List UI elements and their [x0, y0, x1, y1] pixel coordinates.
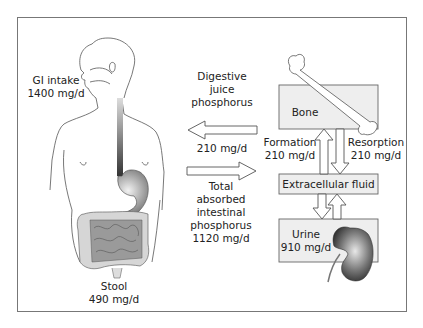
nipples	[80, 162, 148, 165]
absorbed-line4: phosphorus	[185, 219, 257, 232]
urine-title: Urine	[280, 228, 332, 241]
urine-to-ecf-arrow	[328, 194, 346, 219]
bone-label: Bone	[285, 106, 325, 119]
absorbed-phosphorus-label: Total absorbed intestinal phosphorus 112…	[185, 180, 257, 245]
mouth-cavity	[90, 68, 112, 84]
torso-right	[152, 200, 160, 262]
digestive-juice-arrow	[188, 121, 257, 139]
formation-value: 210 mg/d	[262, 149, 318, 162]
absorbed-line2: absorbed	[185, 193, 257, 206]
urine-value: 910 mg/d	[280, 241, 332, 254]
stool-value: 490 mg/d	[84, 293, 144, 306]
absorption-arrow	[187, 162, 256, 180]
gi-intake-label: GI intake 1400 mg/d	[26, 74, 86, 100]
digestive-juice-line3: phosphorus	[188, 96, 256, 109]
gi-intake-title: GI intake	[26, 74, 86, 87]
ear	[109, 62, 115, 72]
resorption-value: 210 mg/d	[344, 149, 408, 162]
gi-intake-value: 1400 mg/d	[26, 87, 86, 100]
formation-label: Formation 210 mg/d	[262, 136, 318, 162]
stool-title: Stool	[84, 280, 144, 293]
absorbed-value: 1120 mg/d	[185, 232, 257, 245]
stool-label: Stool 490 mg/d	[84, 280, 144, 306]
absorbed-line1: Total	[185, 180, 257, 193]
digestive-juice-label: Digestive juice phosphorus	[188, 70, 256, 109]
ecf-to-urine-arrow	[313, 194, 331, 219]
resorption-label: Resorption 210 mg/d	[344, 136, 408, 162]
digestive-juice-value: 210 mg/d	[188, 142, 256, 155]
formation-title: Formation	[262, 136, 318, 149]
digestive-juice-line2: juice	[188, 83, 256, 96]
torso-left	[63, 150, 80, 262]
urine-label: Urine 910 mg/d	[280, 228, 332, 254]
resorption-title: Resorption	[344, 136, 408, 149]
intestines	[77, 212, 148, 279]
digestive-juice-line1: Digestive	[188, 70, 256, 83]
rectum	[112, 268, 122, 278]
diagram-artwork	[0, 0, 423, 328]
absorbed-line3: intestinal	[185, 206, 257, 219]
esophagus	[117, 98, 123, 176]
ecf-label: Extracellular fluid	[279, 178, 378, 191]
